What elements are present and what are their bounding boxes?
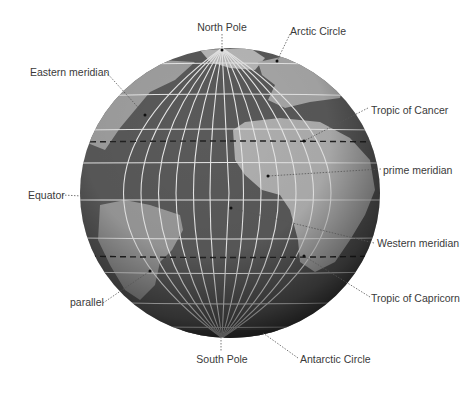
western-meridian-dot xyxy=(230,207,233,210)
parallel-dot xyxy=(149,270,152,273)
label-arctic-circle: Arctic Circle xyxy=(290,25,346,37)
label-south-pole: South Pole xyxy=(196,353,248,365)
tropic-of-capricorn-dot xyxy=(303,255,306,258)
equator-leader xyxy=(62,195,82,196)
label-tropic-of-capricorn: Tropic of Capricorn xyxy=(371,292,460,304)
globe-shading xyxy=(80,48,380,338)
tropic-of-cancer-dot xyxy=(303,140,306,143)
label-western-meridian: Western meridian xyxy=(377,237,459,249)
label-antarctic-circle: Antarctic Circle xyxy=(300,353,371,365)
label-tropic-of-cancer: Tropic of Cancer xyxy=(371,104,449,116)
label-prime-meridian: prime meridian xyxy=(383,164,453,176)
prime-meridian-dot xyxy=(267,175,270,178)
label-parallel: parallel xyxy=(70,296,104,308)
antarctic-circle-leader xyxy=(263,333,298,358)
arctic-circle-leader xyxy=(277,34,290,61)
label-north-pole: North Pole xyxy=(197,21,247,33)
label-eastern-meridian: Eastern meridian xyxy=(30,66,110,78)
globe-diagram: North Pole Arctic Circle Eastern meridia… xyxy=(0,0,475,395)
arctic-circle-dot xyxy=(276,60,279,63)
north-pole-dot xyxy=(221,49,224,52)
eastern-meridian-dot xyxy=(144,114,147,117)
label-equator: Equator xyxy=(28,189,65,201)
